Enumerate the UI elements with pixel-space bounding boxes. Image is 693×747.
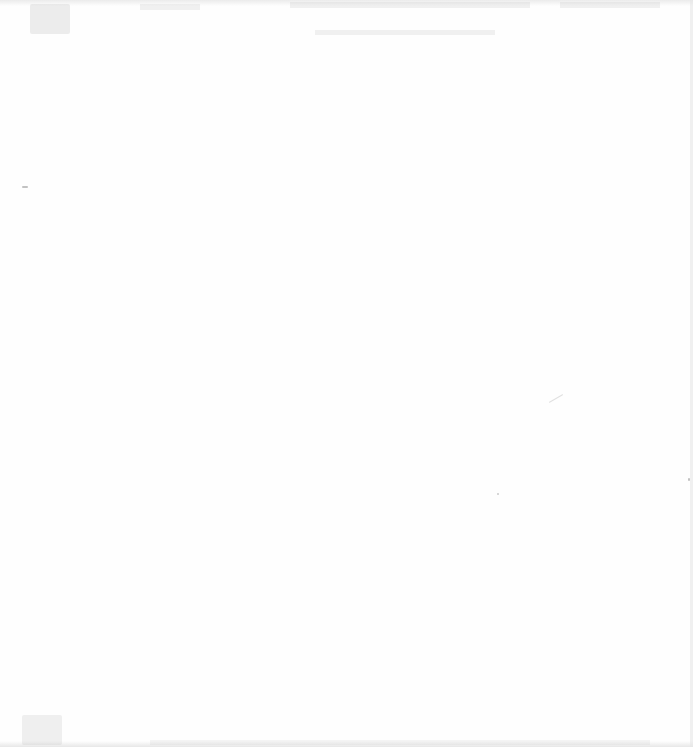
speck [688, 478, 690, 481]
faded-stamp-mark [22, 715, 62, 745]
faded-text-remnant [290, 2, 530, 8]
faded-text-remnant [315, 30, 495, 35]
speck [549, 394, 563, 403]
faded-stamp-mark [30, 4, 70, 34]
faded-text-remnant [140, 4, 200, 10]
speck [497, 493, 499, 495]
blank-scanned-page [0, 0, 693, 747]
faded-text-remnant [150, 740, 650, 745]
faded-text-remnant [560, 2, 660, 8]
speck [22, 186, 28, 188]
